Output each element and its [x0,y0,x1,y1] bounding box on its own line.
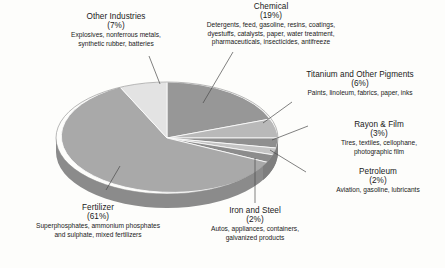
label-chemical: Chemical (19%) Detergents, feed, gasolin… [172,2,370,47]
petroleum-percent: (2%) [313,176,443,185]
chemical-desc-line2: dyestuffs, catalysts, paper, water treat… [172,30,370,38]
fertilizer-desc-line1: Superphosphates, ammonium phosphates [8,222,188,230]
rayon-percent: (3%) [316,129,442,138]
other-industries-percent: (7%) [38,21,194,30]
leader-other-industries [149,56,160,84]
iron-and-steel-title: Iron and Steel [192,206,318,215]
chemical-title: Chemical [172,2,370,11]
label-fertilizer: Fertilizer (61%) Superphosphates, ammoni… [8,203,188,239]
fertilizer-desc-line2: and sulphate, mixed fertilizers [8,231,188,239]
titanium-percent: (6%) [277,79,443,88]
label-titanium-and-other-pigments: Titanium and Other Pigments (6%) Paints,… [277,70,443,97]
petroleum-desc-line1: Aviation, gasoline, lubricants [313,186,443,194]
rayon-title: Rayon & Film [316,120,442,129]
label-other-industries: Other Industries (7%) Explosives, nonfer… [38,12,194,48]
rayon-desc-line2: photographic film [316,148,442,156]
other-industries-desc-line1: Explosives, nonferrous metals, [38,31,194,39]
pie-chart-figure: Other Industries (7%) Explosives, nonfer… [0,0,445,268]
chemical-percent: (19%) [172,11,370,20]
fertilizer-percent: (61%) [8,212,188,221]
fertilizer-title: Fertilizer [8,203,188,212]
label-rayon-and-film: Rayon & Film (3%) Tires, textiles, cello… [316,120,442,156]
titanium-title: Titanium and Other Pigments [277,70,443,79]
iron-and-steel-desc-line2: galvanized products [192,234,318,242]
titanium-desc-line1: Paints, linoleum, fabrics, paper, inks [277,89,443,97]
other-industries-desc-line2: synthetic rubber, batteries [38,40,194,48]
label-iron-and-steel: Iron and Steel (2%) Autos, appliances, c… [192,206,318,242]
petroleum-title: Petroleum [313,167,443,176]
iron-and-steel-desc-line1: Autos, appliances, containers, [192,225,318,233]
iron-and-steel-percent: (2%) [192,215,318,224]
chemical-desc-line3: pharmaceuticals, insecticides, antifreez… [172,38,370,46]
chemical-desc-line1: Detergents, feed, gasoline, resins, coat… [172,21,370,29]
label-petroleum: Petroleum (2%) Aviation, gasoline, lubri… [313,167,443,194]
other-industries-title: Other Industries [38,12,194,21]
leader-titanium [263,102,292,123]
rayon-desc-line1: Tires, textiles, cellophane, [316,139,442,147]
